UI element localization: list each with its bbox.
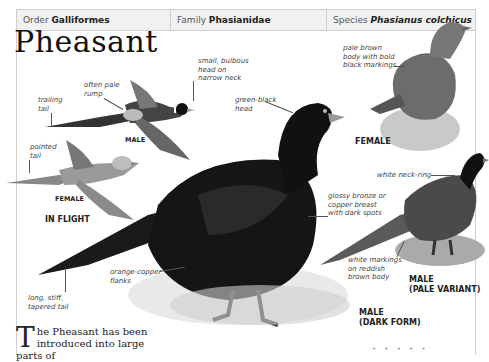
leader-line-pointed-tail <box>29 160 30 173</box>
footer-dots: • • • • • <box>372 345 429 353</box>
caption-female: FEMALE <box>355 137 391 147</box>
caption-male-dark-1: MALE <box>359 308 384 318</box>
drop-cap: T <box>16 326 35 350</box>
caption-male-dark-2: (DARK FORM) <box>359 318 421 328</box>
female-standing-illustration <box>365 14 475 154</box>
family-label: Family <box>177 15 206 25</box>
ground-patch <box>170 285 350 330</box>
annotation-trailing-tail: trailing tail <box>38 96 63 113</box>
intro-text: he Pheasant has been introduced into lar… <box>16 326 147 361</box>
caption-flight-female: FEMALE <box>55 195 84 203</box>
family-cell: Family Phasianidae <box>171 10 327 30</box>
annotation-female-body: pale brown body with bold black markings <box>343 44 396 70</box>
intro-paragraph: The Pheasant has been introduced into la… <box>16 326 166 362</box>
leader-line-trailing-tail <box>51 113 52 127</box>
species-label: Species <box>333 15 368 25</box>
annotation-pointed-tail: pointed tail <box>30 143 57 160</box>
annotation-white-markings: white markings on reddish brown body <box>348 256 402 282</box>
caption-male-pale-1: MALE <box>409 275 434 285</box>
leader-line-bulbous-head <box>193 81 194 101</box>
annotation-bulbous-head: small, bulbous head on narrow neck <box>198 57 249 83</box>
family-value: Phasianidae <box>209 15 271 25</box>
caption-flight-male: MALE <box>125 136 145 144</box>
leader-line-neck-ring <box>431 175 455 176</box>
leader-line-female-body <box>393 66 405 67</box>
annotation-long-tail: long, stiff, tapered tail <box>28 294 69 311</box>
leader-line-long-tail <box>65 270 66 292</box>
annotation-bronze-breast: glossy bronze or copper breast with dark… <box>328 192 386 218</box>
caption-male-pale-2: (PALE VARIANT) <box>409 285 480 295</box>
page-title: Pheasant <box>14 24 158 59</box>
annotation-pale-rump: often pale rump <box>84 81 119 98</box>
leader-line-bronze-breast <box>308 216 328 217</box>
annotation-neck-ring: white neck-ring <box>377 171 431 180</box>
caption-in-flight: IN FLIGHT <box>45 215 90 225</box>
annotation-orange-flanks: orange-copper flanks <box>110 268 161 285</box>
